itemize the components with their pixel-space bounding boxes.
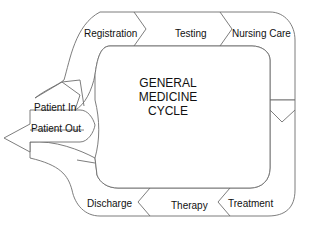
step-label-nursing-care: Nursing Care: [232, 29, 291, 39]
step-label-testing: Testing: [175, 29, 207, 39]
entry-label: Patient In: [34, 103, 76, 113]
title-line-1: GENERAL: [118, 76, 218, 90]
step-label-registration: Registration: [84, 29, 137, 39]
title-line-2: MEDICINE: [118, 90, 218, 104]
title-line-3: CYCLE: [118, 104, 218, 118]
diagram-title: GENERAL MEDICINE CYCLE: [118, 76, 218, 118]
step-label-discharge: Discharge: [87, 199, 132, 209]
exit-label: Patient Out: [31, 124, 81, 134]
step-label-therapy: Therapy: [171, 201, 208, 211]
step-label-treatment: Treatment: [228, 199, 273, 209]
